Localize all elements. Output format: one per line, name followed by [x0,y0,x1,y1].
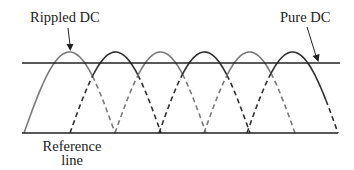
arch-dashed-segment [247,73,271,133]
arch-dashed-segment [70,76,93,133]
rectified-waveform-arches [24,52,338,133]
pure-dc-label: Pure DC [280,9,330,25]
arch-dashed-segment [138,75,161,133]
arch-solid-segment [93,52,139,76]
arch-dashed-segment [227,75,250,133]
arch-dashed-segment [204,75,227,133]
arch-dashed-segment [159,74,183,133]
pure-dc-arrow-icon [307,27,320,62]
arch-dashed-segment [93,76,116,133]
rippled-dc-arrow-icon [67,28,74,51]
arch-dashed-segment [271,73,295,133]
arch-dashed-segment [115,75,138,133]
arch-dashed-segment [326,100,338,133]
rectified-dc-diagram: Rippled DC Pure DC Reference line [0,0,354,170]
arch-solid-segment [24,52,93,133]
rippled-dc-label: Rippled DC [30,9,100,25]
reference-line-label-2: line [61,152,83,168]
arch-dashed-segment [183,74,207,133]
